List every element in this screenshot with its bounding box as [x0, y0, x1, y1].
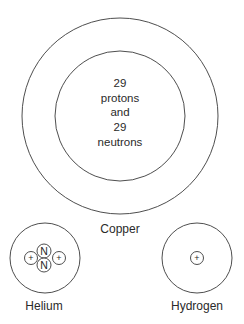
n-glyph: N	[40, 245, 48, 257]
copper-nucleus-line-2: protons	[101, 92, 140, 104]
plus-glyph: +	[194, 253, 199, 263]
hydrogen-atom: + Hydrogen	[162, 223, 232, 313]
helium-atom: + + N N Helium	[10, 223, 80, 313]
helium-neutron-top: N	[37, 244, 51, 258]
copper-nucleus-line-1: 29	[114, 77, 127, 89]
helium-label: Helium	[25, 299, 62, 313]
n-glyph: N	[40, 259, 48, 271]
hydrogen-label: Hydrogen	[171, 299, 223, 313]
copper-nucleus-line-4: 29	[114, 121, 127, 133]
helium-proton-left: +	[25, 252, 38, 265]
copper-atom: 29 protons and 29 neutrons Copper	[22, 18, 218, 236]
plus-glyph: +	[56, 253, 61, 263]
copper-nucleus-line-3: and	[110, 106, 129, 118]
copper-label: Copper	[100, 222, 139, 236]
helium-neutron-bottom: N	[37, 258, 51, 272]
atom-comparison-diagram: 29 protons and 29 neutrons Copper + + N …	[0, 0, 244, 324]
copper-nucleus-line-5: neutrons	[98, 136, 143, 148]
plus-glyph: +	[28, 253, 33, 263]
helium-proton-right: +	[53, 252, 66, 265]
